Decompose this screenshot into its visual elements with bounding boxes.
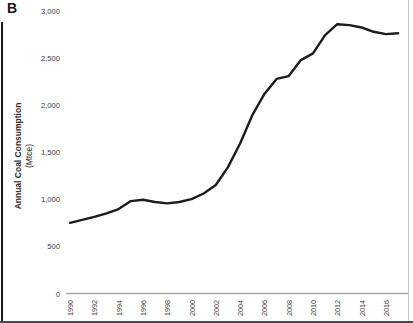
figure-panel-b: B Annual Coal Consumption (Mtce) 3,0002,… — [0, 0, 413, 323]
x-tick-label: 1994 — [115, 300, 124, 316]
y-tick-label: 0 — [56, 290, 60, 299]
y-tick-label: 1,500 — [41, 148, 60, 157]
x-tick-label: 1996 — [139, 300, 148, 316]
x-tick-label: 2016 — [382, 300, 391, 316]
y-tick-label: 1,000 — [41, 195, 60, 204]
figure-left-border — [1, 22, 3, 323]
y-tick-label: 500 — [47, 242, 60, 251]
x-tick-label: 2000 — [188, 300, 197, 316]
figure-right-edge — [408, 0, 409, 321]
x-tick-label: 2010 — [309, 300, 318, 316]
x-tick-label: 1992 — [90, 300, 99, 316]
y-tick-label: 2,000 — [41, 101, 60, 110]
x-tick-label: 2008 — [285, 300, 294, 316]
x-tick-label: 2002 — [212, 300, 221, 316]
y-tick-label: 3,000 — [41, 7, 60, 16]
consumption-line — [70, 24, 398, 223]
x-tick-label: 2014 — [358, 300, 367, 316]
x-tick-label: 1998 — [163, 300, 172, 316]
x-tick-label: 2012 — [333, 300, 342, 316]
x-tick-label: 2006 — [260, 300, 269, 316]
coal-consumption-line-chart: 3,0002,5002,0001,5001,000500019901992199… — [0, 0, 413, 323]
x-tick-label: 2004 — [236, 300, 245, 316]
x-tick-label: 1990 — [66, 300, 75, 316]
y-tick-label: 2,500 — [41, 54, 60, 63]
